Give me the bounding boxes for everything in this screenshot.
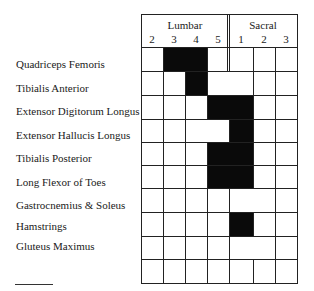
column-line <box>163 119 164 142</box>
row-line <box>141 95 297 96</box>
column-line <box>207 259 208 283</box>
row-line <box>141 142 297 143</box>
column-line <box>207 142 208 165</box>
column-line <box>275 212 276 236</box>
muscle-label: Gluteus Maximus <box>16 240 95 252</box>
column-line <box>207 188 208 212</box>
segment-number: 5 <box>207 33 229 45</box>
segment-cell-filled <box>229 119 254 143</box>
segment-cell-filled <box>229 95 254 120</box>
column-line <box>163 142 164 165</box>
column-line <box>275 236 276 259</box>
column-line <box>229 259 230 283</box>
column-line <box>207 71 208 95</box>
column-line <box>207 165 208 188</box>
column-line <box>185 212 186 236</box>
column-line <box>253 95 254 119</box>
column-line <box>275 95 276 119</box>
column-line <box>163 95 164 119</box>
segment-cell-filled <box>207 165 230 189</box>
header-group-sacral: Sacral <box>229 19 297 31</box>
lumbar-sacral-divider <box>229 14 230 71</box>
column-line <box>207 95 208 119</box>
column-line <box>253 119 254 142</box>
column-line <box>163 165 164 188</box>
column-line <box>185 142 186 165</box>
column-line <box>229 119 230 142</box>
column-line <box>207 212 208 236</box>
column-line <box>275 259 276 283</box>
footnote-rule <box>15 284 53 285</box>
column-line <box>253 212 254 236</box>
column-line <box>275 142 276 165</box>
lumbar-sacral-divider <box>227 14 228 71</box>
row-line <box>141 188 297 189</box>
muscle-label: Tibialis Posterior <box>16 152 92 164</box>
segment-cell-filled <box>185 47 208 72</box>
segment-number: 4 <box>185 33 207 45</box>
column-line <box>163 259 164 283</box>
segment-cell-filled <box>163 47 186 72</box>
segment-number: 1 <box>229 33 253 45</box>
column-line <box>275 188 276 212</box>
row-line <box>141 165 297 166</box>
row-line <box>141 47 297 48</box>
column-line <box>207 47 208 71</box>
muscle-label: Extensor Digitorum Longus <box>16 105 139 117</box>
column-line <box>253 71 254 95</box>
muscle-label: Long Flexor of Toes <box>16 176 106 188</box>
column-line <box>163 188 164 212</box>
row-line <box>141 212 297 213</box>
header-group-lumbar: Lumbar <box>141 19 229 31</box>
column-line <box>163 236 164 259</box>
segment-cell-filled <box>207 95 230 120</box>
column-line <box>185 71 186 95</box>
column-line <box>275 71 276 95</box>
row-line <box>141 259 297 260</box>
column-line <box>163 71 164 95</box>
column-line <box>185 119 186 142</box>
column-line <box>163 47 164 71</box>
segment-cell-filled <box>229 142 254 166</box>
column-line <box>185 95 186 119</box>
segment-cell-filled <box>207 142 230 166</box>
column-line <box>253 142 254 165</box>
segment-cell-filled <box>229 165 254 189</box>
segment-number: 2 <box>141 33 163 45</box>
column-line <box>185 259 186 283</box>
column-line <box>185 236 186 259</box>
segment-cell-filled <box>185 71 208 96</box>
column-line <box>253 47 254 71</box>
muscle-label: Gastrocnemius & Soleus <box>16 199 125 211</box>
segment-number: 2 <box>253 33 275 45</box>
column-line <box>185 165 186 188</box>
segment-number: 3 <box>275 33 297 45</box>
column-line <box>253 165 254 188</box>
column-line <box>185 188 186 212</box>
column-line <box>229 212 230 236</box>
segment-number: 3 <box>163 33 185 45</box>
muscle-label: Tibialis Anterior <box>16 82 89 94</box>
column-line <box>229 188 230 212</box>
segment-cell-filled <box>229 212 254 237</box>
column-line <box>207 236 208 259</box>
column-line <box>275 47 276 71</box>
muscle-label: Quadriceps Femoris <box>16 58 105 70</box>
row-line <box>141 236 297 237</box>
column-line <box>253 259 254 283</box>
column-line <box>275 165 276 188</box>
muscle-label: Extensor Hallucis Longus <box>16 129 130 141</box>
row-line <box>141 71 297 72</box>
column-line <box>163 212 164 236</box>
column-line <box>275 119 276 142</box>
column-line <box>229 236 230 259</box>
muscle-label: Hamstrings <box>16 220 67 232</box>
row-line <box>141 119 297 120</box>
